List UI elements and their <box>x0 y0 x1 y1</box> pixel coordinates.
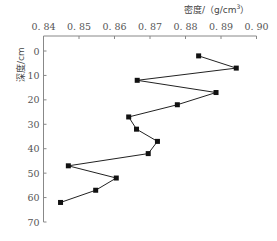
y-tick-label: 50 <box>27 168 39 179</box>
data-point-marker <box>234 66 239 71</box>
axis-titles: 密度/（g/cm3） 深度/cm <box>15 3 249 82</box>
x-axis-title: 密度/（g/cm3） <box>184 3 249 15</box>
data-point-marker <box>134 127 139 132</box>
y-tick-label: 40 <box>27 143 39 154</box>
x-tick-label: 0. 88 <box>173 21 197 32</box>
data-point-marker <box>175 102 180 107</box>
data-point-marker <box>66 163 71 168</box>
y-tick-label: 70 <box>27 217 39 228</box>
x-tick-label: 0. 87 <box>138 21 162 32</box>
density-depth-chart: 0. 840. 850. 860. 870. 880. 890. 90 0102… <box>0 0 277 241</box>
series-density <box>58 53 239 205</box>
y-axis-title: 深度/cm <box>15 47 26 82</box>
data-point-marker <box>93 188 98 193</box>
data-point-marker <box>135 78 140 83</box>
x-tick-label: 0. 89 <box>209 21 233 32</box>
x-tick-label: 0. 85 <box>67 21 91 32</box>
x-tick-label: 0. 86 <box>102 21 126 32</box>
data-point-marker <box>58 200 63 205</box>
data-point-marker <box>214 90 219 95</box>
x-tick-label: 0. 90 <box>244 21 268 32</box>
y-tick-label: 10 <box>27 70 39 81</box>
series-line <box>61 56 237 203</box>
data-point-marker <box>146 151 151 156</box>
y-tick-label: 0 <box>33 46 39 57</box>
y-tick-label: 20 <box>27 94 39 105</box>
data-point-marker <box>196 53 201 58</box>
data-point-marker <box>155 139 160 144</box>
data-point-marker <box>114 176 119 181</box>
y-tick-label: 60 <box>27 192 39 203</box>
data-point-marker <box>126 114 131 119</box>
x-axis-title-end: ） <box>240 5 249 15</box>
x-tick-label: 0. 84 <box>31 21 55 32</box>
y-tick-label: 30 <box>27 119 39 130</box>
x-axis-title-main: 密度/（g/cm <box>184 4 237 15</box>
